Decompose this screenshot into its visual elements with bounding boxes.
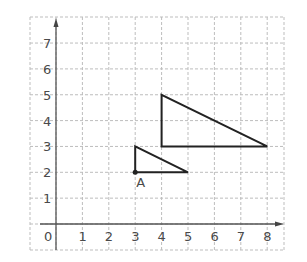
x-axis-arrow-icon (275, 222, 284, 227)
y-tick-label: 1 (43, 191, 51, 206)
x-tick-label: 4 (158, 229, 166, 244)
point-marker (133, 170, 138, 175)
x-tick-label: 5 (184, 229, 192, 244)
y-tick-label: 7 (43, 36, 51, 51)
shapes (135, 95, 267, 173)
y-tick-labels: 1234567 (43, 36, 51, 206)
x-tick-label: 0 (44, 229, 52, 244)
y-tick-label: 4 (43, 114, 51, 129)
x-tick-label: 6 (210, 229, 218, 244)
x-tick-label: 3 (131, 229, 139, 244)
coordinate-grid-diagram: 012345678 1234567 A (0, 0, 307, 262)
y-tick-label: 2 (43, 165, 51, 180)
x-tick-label: 7 (237, 229, 245, 244)
y-tick-label: 5 (43, 88, 51, 103)
y-axis-arrow-icon (54, 18, 59, 27)
y-tick-label: 3 (43, 139, 51, 154)
point-label: A (136, 175, 145, 190)
x-tick-label: 2 (105, 229, 113, 244)
y-tick-label: 6 (43, 62, 51, 77)
x-tick-label: 8 (263, 229, 271, 244)
grid-lines (30, 17, 284, 250)
x-tick-labels: 012345678 (44, 229, 271, 244)
x-tick-label: 1 (78, 229, 86, 244)
